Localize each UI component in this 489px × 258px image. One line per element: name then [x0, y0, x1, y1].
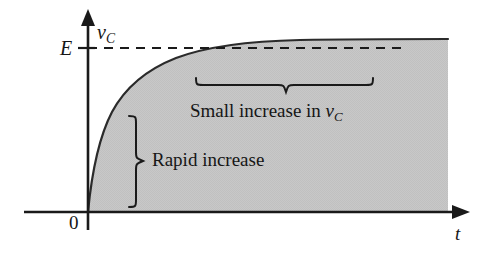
- capacitor-charging-figure: E vC 0 t Small increase in vC Rapid incr…: [0, 0, 489, 258]
- y-axis-label-var: v: [97, 21, 106, 43]
- y-axis-arrowhead: [81, 9, 95, 26]
- curve-fill-area: [88, 39, 448, 212]
- origin-label: 0: [69, 213, 79, 232]
- small-increase-annotation-text: Small increase in vC: [190, 101, 343, 124]
- x-axis-label: t: [455, 224, 460, 243]
- small-increase-text-var: v: [326, 100, 334, 121]
- x-axis-arrowhead: [452, 205, 470, 219]
- small-increase-text-var-subscript: C: [334, 109, 343, 124]
- small-increase-text-prefix: Small increase in: [190, 100, 326, 121]
- y-axis-value-label-E: E: [60, 38, 72, 58]
- y-axis-label-subscript: C: [106, 31, 115, 46]
- y-axis-label: vC: [97, 22, 115, 45]
- rapid-increase-annotation-text: Rapid increase: [152, 150, 264, 169]
